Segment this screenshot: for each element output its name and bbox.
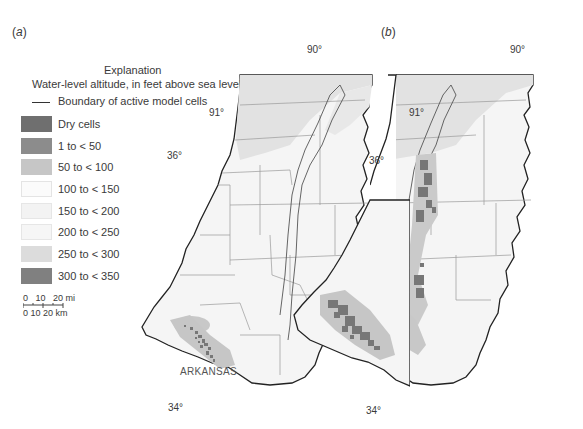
lon-90-label-a: 90°: [307, 44, 322, 55]
legend-item-300-350: 300 to < 350: [21, 265, 119, 287]
boundary-line-icon: [32, 102, 50, 103]
map-b: [396, 35, 583, 395]
scale-km-labels: 0 10 20 km: [23, 308, 75, 318]
panel-letter: a: [16, 25, 23, 39]
legend-label: 300 to < 350: [58, 270, 119, 282]
legend-item-dry: Dry cells: [21, 113, 119, 135]
scale-mi-labels: 0 10 20 mi: [23, 293, 75, 303]
legend-item-50-100: 50 to < 100: [21, 156, 119, 178]
legend-label: 250 to < 300: [58, 248, 119, 260]
lon-90-label-b: 90°: [510, 44, 525, 55]
lon-91-label-b: 91°: [409, 107, 424, 118]
swatch-1-50: [21, 138, 52, 154]
swatch-200-250: [21, 224, 52, 240]
swatch-50-100: [21, 159, 52, 175]
lat-34-label-b: 34°: [366, 405, 381, 416]
legend-label: 50 to < 100: [58, 161, 113, 173]
lon-91-label-a: 91°: [209, 107, 224, 118]
legend-item-100-150: 100 to < 150: [21, 178, 119, 200]
panel-a-label: (a): [12, 25, 27, 39]
paren-close: ): [23, 25, 27, 39]
lat-36-label-a: 36°: [167, 150, 182, 161]
legend-label: 100 to < 150: [58, 183, 119, 195]
legend-item-150-200: 150 to < 200: [21, 200, 119, 222]
scale-bar: 0 10 20 mi 0 10 20 km: [23, 293, 75, 318]
swatch-100-150: [21, 181, 52, 197]
legend-label: 200 to < 250: [58, 226, 119, 238]
swatch-150-200: [21, 203, 52, 219]
swatch-dry: [21, 116, 52, 132]
map-b-southwest-body: [290, 140, 410, 400]
state-label-arkansas: ARKANSAS: [180, 366, 237, 377]
lat-34-label-a: 34°: [168, 402, 183, 413]
legend-label: 1 to < 50: [58, 140, 101, 152]
legend-item-1-50: 1 to < 50: [21, 135, 119, 157]
legend-items: Dry cells 1 to < 50 50 to < 100 100 to <…: [21, 113, 119, 287]
lat-36-label-b: 36°: [369, 155, 384, 166]
legend-label: 150 to < 200: [58, 205, 119, 217]
legend-item-250-300: 250 to < 300: [21, 243, 119, 265]
legend-label: Dry cells: [58, 118, 100, 130]
legend-item-200-250: 200 to < 250: [21, 221, 119, 243]
swatch-300-350: [21, 268, 52, 284]
swatch-250-300: [21, 246, 52, 262]
